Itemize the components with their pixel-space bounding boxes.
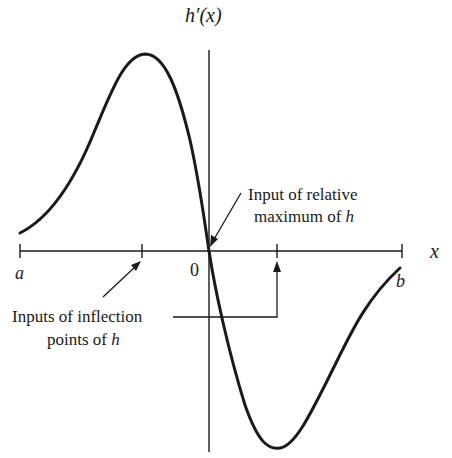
tick-label-origin: 0 xyxy=(190,260,199,280)
arrow-inflection-2-line xyxy=(173,268,277,317)
arrow-inflection-2-head xyxy=(273,261,281,272)
annotation-inflection-line1: Inputs of inflection xyxy=(12,307,143,326)
y-axis-label: h′(x) xyxy=(185,4,222,27)
x-axis-label: x xyxy=(429,240,439,262)
arrow-relative-max-line xyxy=(213,193,241,241)
tick-label-b: b xyxy=(396,271,405,291)
derivative-graph: h′(x) x a 0 b Input of relative maximum … xyxy=(0,0,452,458)
arrow-inflection-1-line xyxy=(103,266,136,297)
arrow-relative-max-head xyxy=(210,235,218,247)
tick-label-a: a xyxy=(15,263,24,283)
annotation-relative-max-line2: maximum of h xyxy=(254,207,354,226)
annotation-relative-max-line1: Input of relative xyxy=(248,185,358,204)
annotation-inflection-line2: points of h xyxy=(47,330,120,349)
